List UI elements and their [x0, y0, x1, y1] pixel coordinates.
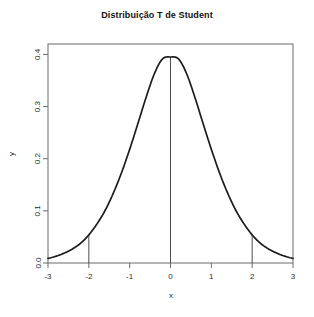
x-tick-label: -2 [85, 272, 93, 281]
x-tick-label: 0 [168, 272, 173, 281]
vertical-reference-lines [89, 57, 252, 263]
x-tick-label: -1 [126, 272, 134, 281]
y-tick-label: 0.3 [34, 100, 43, 112]
x-axis-ticks: -3-2-10123 [44, 263, 295, 281]
y-axis-ticks: 0.00.10.20.30.4 [34, 48, 49, 268]
x-tick-label: 3 [291, 272, 296, 281]
y-tick-label: 0.0 [34, 257, 43, 269]
x-tick-label: 1 [209, 272, 214, 281]
x-tick-label: 2 [250, 272, 255, 281]
y-axis-label: y [7, 152, 16, 156]
x-tick-label: -3 [44, 272, 52, 281]
chart-container: Distribuição T de Student -3-2-10123 0.0… [0, 0, 314, 317]
y-tick-label: 0.4 [34, 48, 43, 60]
y-tick-label: 0.2 [34, 153, 43, 165]
x-axis-label: x [169, 291, 173, 300]
plot-area: -3-2-10123 0.00.10.20.30.4 x y [0, 0, 314, 317]
y-tick-label: 0.1 [34, 205, 43, 217]
